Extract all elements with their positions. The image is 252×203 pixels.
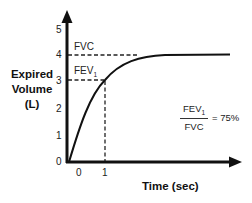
y-axis-label-line3: (L) xyxy=(2,97,62,112)
x-axis-arrowhead-icon xyxy=(229,157,242,168)
fev1-label: FEV1 xyxy=(74,65,97,78)
y-axis-arrowhead-icon xyxy=(62,10,73,23)
fev1-label-text: FEV xyxy=(74,65,93,76)
y-tick-4: 4 xyxy=(56,49,62,60)
y-tick-1: 1 xyxy=(56,130,62,141)
y-tick-2: 2 xyxy=(56,103,62,114)
y-axis-label: Expired Volume (L) xyxy=(2,67,62,112)
x-tick-0: 0 xyxy=(76,167,82,178)
fvc-label: FVC xyxy=(74,41,94,52)
ratio-denominator: FVC xyxy=(185,119,204,132)
fev1-label-subscript: 1 xyxy=(93,71,97,78)
ratio-numerator-text: FEV xyxy=(183,103,201,114)
ratio-fraction: FEV1 FVC xyxy=(180,103,208,132)
ratio-numerator-subscript: 1 xyxy=(201,109,205,116)
x-tick-1: 1 xyxy=(102,167,108,178)
ratio-value: = 75% xyxy=(212,112,239,123)
ratio-numerator: FEV1 xyxy=(180,103,208,119)
y-tick-3: 3 xyxy=(56,75,62,86)
x-axis-label: Time (sec) xyxy=(142,180,199,192)
ratio-annotation: FEV1 FVC = 75% xyxy=(180,103,239,132)
y-tick-0: 0 xyxy=(56,156,62,167)
y-tick-5: 5 xyxy=(56,24,62,35)
y-axis-label-line2: Volume xyxy=(2,82,62,97)
y-axis-label-line1: Expired xyxy=(2,67,62,82)
